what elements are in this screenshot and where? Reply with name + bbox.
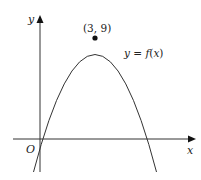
- origin-label: O: [26, 143, 35, 156]
- y-axis-label: y: [27, 13, 35, 26]
- parabola-diagram: y x O (3, 9) y = f(x): [0, 0, 201, 180]
- x-axis-label: x: [187, 144, 194, 157]
- y-axis-arrow-icon: [37, 15, 44, 23]
- curve-label-eq: =: [130, 47, 145, 59]
- curve-label-close: ): [159, 47, 163, 59]
- vertex-label: (3, 9): [83, 22, 111, 34]
- parabola-curve: [34, 55, 157, 173]
- curve-label: y = f(x): [123, 47, 163, 59]
- x-axis-arrow-icon: [188, 136, 196, 143]
- vertex-point: [92, 35, 97, 40]
